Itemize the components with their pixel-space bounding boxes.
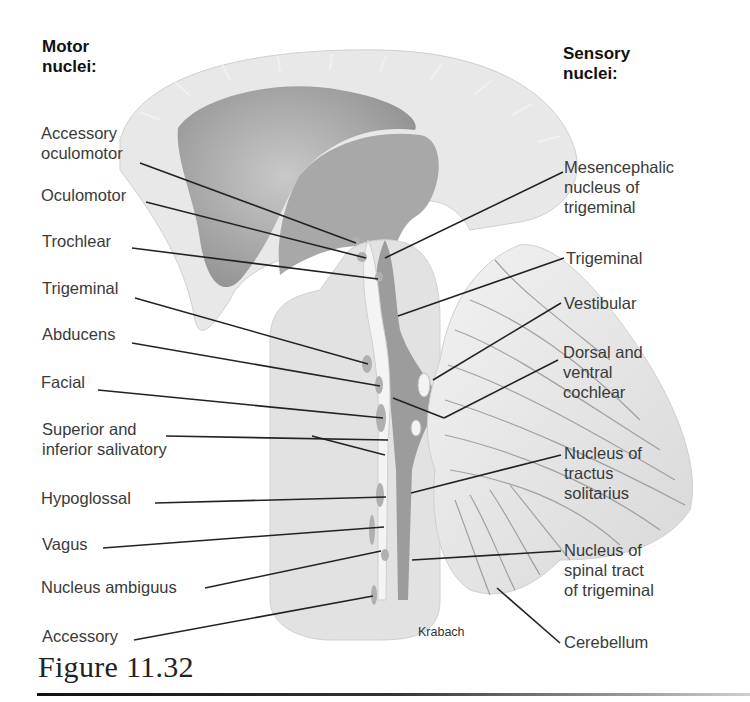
label-mesencephalic-trigeminal: Mesencephalic nucleus of trigeminal <box>564 157 674 217</box>
sensory-nuclei-heading: Sensory nuclei: <box>563 44 630 84</box>
label-cerebellum: Cerebellum <box>564 632 648 652</box>
label-vagus: Vagus <box>42 534 88 554</box>
caption-rule <box>37 693 750 696</box>
label-abducens: Abducens <box>42 324 115 344</box>
label-vestibular: Vestibular <box>564 293 636 313</box>
label-trigeminal-motor: Trigeminal <box>42 278 118 298</box>
label-spinal-tract-trigeminal: Nucleus of spinal tract of trigeminal <box>564 540 654 600</box>
artist-credit: Krabach <box>418 625 465 639</box>
label-hypoglossal: Hypoglossal <box>41 488 131 508</box>
label-accessory-oculomotor: Accessory oculomotor <box>41 123 123 163</box>
motor-nuclei-heading: Motor nuclei: <box>42 37 97 77</box>
label-trochlear: Trochlear <box>42 231 111 251</box>
label-cochlear: Dorsal and ventral cochlear <box>563 342 643 402</box>
figure-caption: Figure 11.32 <box>38 650 194 684</box>
label-salivatory: Superior and inferior salivatory <box>42 419 167 459</box>
label-trigeminal-sensory: Trigeminal <box>566 248 642 268</box>
label-tractus-solitarius: Nucleus of tractus solitarius <box>564 443 642 503</box>
label-nucleus-ambiguus: Nucleus ambiguus <box>41 577 177 597</box>
label-oculomotor: Oculomotor <box>41 185 126 205</box>
label-accessory: Accessory <box>42 626 118 646</box>
label-facial: Facial <box>41 372 85 392</box>
